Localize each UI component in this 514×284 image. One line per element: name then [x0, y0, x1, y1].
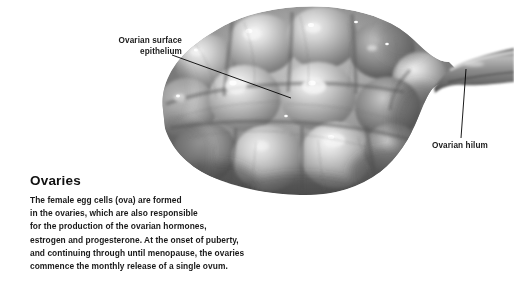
ovary-figure: Ovarian surface epithelium Ovarian hilum…	[0, 0, 514, 284]
caption-body: The female egg cells (ova) are formed in…	[30, 194, 280, 273]
callout-label-ovarian-hilum: Ovarian hilum	[432, 140, 488, 151]
caption-title: Ovaries	[30, 173, 280, 188]
caption-block: Ovaries The female egg cells (ova) are f…	[30, 173, 280, 273]
callout-label-ovarian-surface-epithelium: Ovarian surface epithelium	[96, 35, 182, 57]
